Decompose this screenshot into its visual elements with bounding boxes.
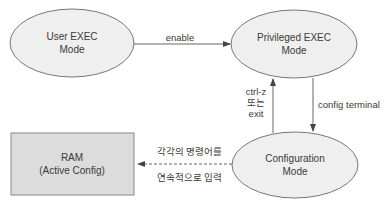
privileged-exec-label: Privileged EXEC Mode: [234, 31, 354, 57]
to-ram-label-top: 각각의 명령어를: [147, 146, 232, 157]
config-terminal-label: config terminal: [318, 99, 380, 110]
exit-label: ctrl-z 또는 exit: [241, 86, 271, 119]
enable-label: enable: [150, 32, 210, 43]
ram-label: RAM (Active Config): [22, 151, 122, 177]
to-ram-label-bottom: 연속적으로 입력: [147, 172, 232, 183]
configuration-label: Configuration Mode: [245, 152, 345, 178]
user-exec-label: User EXEC Mode: [22, 30, 122, 56]
